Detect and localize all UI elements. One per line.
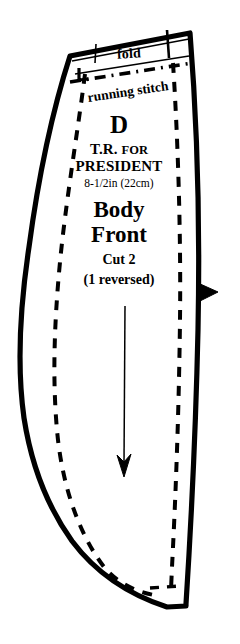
pattern-piece-drawing xyxy=(0,0,240,644)
fold-tick-left-icon xyxy=(95,44,96,63)
cutting-line-path xyxy=(20,33,198,607)
pattern-sheet: fold running stitch D T.R. FOR PRESIDENT… xyxy=(0,0,240,644)
notch-triangle-icon xyxy=(198,283,218,302)
